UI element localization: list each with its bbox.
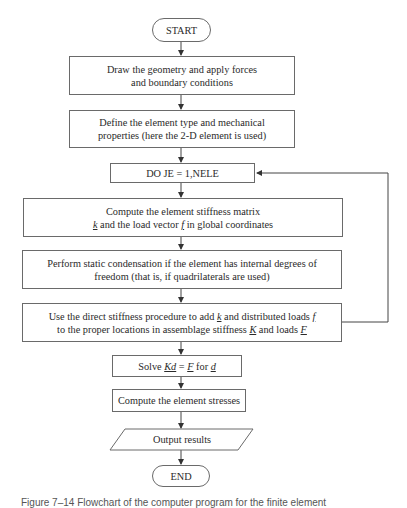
step-draw-geometry-line1: Draw the geometry and apply forces <box>107 63 257 76</box>
step-compute-stresses: Compute the element stresses <box>112 389 246 412</box>
symbol-d: d <box>211 361 216 372</box>
step-define-element-line2: properties (here the 2-D element is used… <box>98 129 266 142</box>
figure-caption: Figure 7–14 Flowchart of the computer pr… <box>21 497 326 508</box>
text-segment: and the load vector <box>97 219 181 230</box>
step-draw-geometry: Draw the geometry and apply forces and b… <box>69 56 295 95</box>
text-segment: = <box>176 361 187 372</box>
step-direct-stiffness-line1: Use the direct stiffness procedure to ad… <box>49 310 316 323</box>
start-label: START <box>166 24 197 37</box>
output-results-label: Output results <box>153 433 211 446</box>
text-segment: and loads <box>256 324 300 335</box>
start-terminal: START <box>152 18 211 42</box>
symbol-Kd: Kd <box>164 361 176 372</box>
text-segment: and distributed loads <box>221 311 312 322</box>
step-static-condensation: Perform static condensation if the eleme… <box>22 250 342 289</box>
step-direct-stiffness-line2: to the proper locations in assemblage st… <box>49 323 316 336</box>
step-compute-stiffness-line2: k and the load vector f in global coordi… <box>93 218 273 231</box>
step-define-element-line1: Define the element type and mechanical <box>98 116 266 129</box>
text-segment: for <box>194 361 211 372</box>
step-solve-label: Solve Kd = F for d <box>138 360 216 373</box>
text-segment: in global coordinates <box>184 219 273 230</box>
end-terminal: END <box>152 465 210 487</box>
step-compute-stiffness: Compute the element stiffness matrix k a… <box>23 198 343 237</box>
symbol-f: f <box>312 311 315 322</box>
text-segment: Use the direct stiffness procedure to ad… <box>49 311 217 322</box>
step-static-condensation-line2: freedom (that is, if quadrilaterals are … <box>47 270 317 283</box>
step-define-element: Define the element type and mechanical p… <box>69 110 295 148</box>
loop-do-box: DO JE = 1,NELE <box>110 163 255 183</box>
step-solve: Solve Kd = F for d <box>112 355 242 377</box>
loop-label: DO JE = 1,NELE <box>146 167 219 180</box>
step-static-condensation-line1: Perform static condensation if the eleme… <box>47 257 317 270</box>
output-results: Output results <box>118 429 246 450</box>
symbol-F: F <box>301 324 307 335</box>
text-segment: to the proper locations in assemblage st… <box>57 324 249 335</box>
step-compute-stiffness-line1: Compute the element stiffness matrix <box>93 205 273 218</box>
end-label: END <box>170 470 191 483</box>
step-direct-stiffness: Use the direct stiffness procedure to ad… <box>22 303 342 342</box>
text-segment: Solve <box>138 361 164 372</box>
step-draw-geometry-line2: and boundary conditions <box>107 76 257 89</box>
step-compute-stresses-label: Compute the element stresses <box>118 394 240 407</box>
